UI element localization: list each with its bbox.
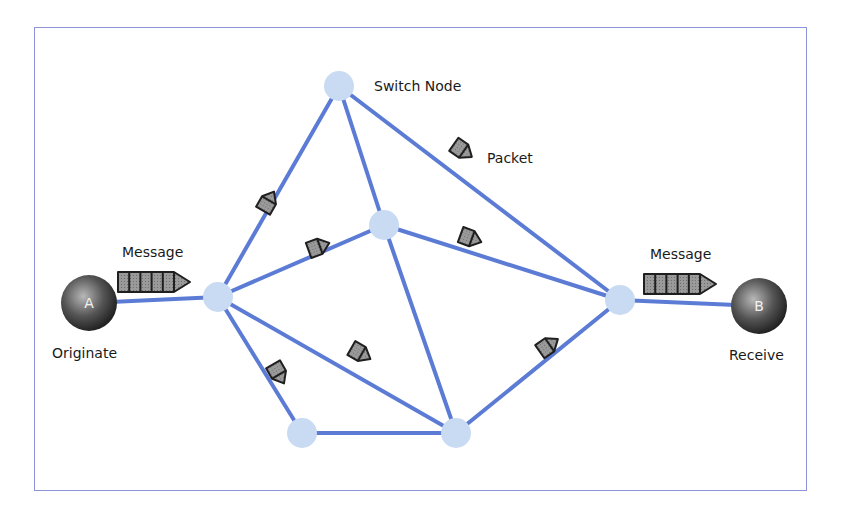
- switch-node: [287, 418, 317, 448]
- link-n2-n3: [339, 86, 384, 225]
- receive-label: Receive: [729, 347, 784, 363]
- endpoint-label-B: B: [754, 298, 764, 314]
- message-icon: [118, 272, 190, 292]
- switch-node: [203, 282, 233, 312]
- link-n1-n3: [218, 225, 384, 297]
- message-icon: [644, 274, 716, 294]
- message-label-right: Message: [650, 246, 711, 262]
- packet-icon: [458, 227, 484, 250]
- packet-icon: [347, 341, 374, 366]
- switch-node: [605, 285, 635, 315]
- link-n1-n4: [218, 297, 302, 433]
- message-label-left: Message: [122, 244, 183, 260]
- packet-icon: [306, 235, 332, 258]
- packet-icon: [535, 333, 562, 359]
- link-n2-n6: [339, 86, 620, 300]
- link-n1-n5: [218, 297, 456, 433]
- switch-node-label: Switch Node: [374, 78, 461, 94]
- link-n3-n5: [384, 225, 456, 433]
- switch-nodes: [203, 71, 635, 448]
- switch-node: [441, 418, 471, 448]
- link-n1-n2: [218, 86, 339, 297]
- link-n5-n6: [456, 300, 620, 433]
- switch-node: [324, 71, 354, 101]
- link-n3-n6: [384, 225, 620, 300]
- originate-label: Originate: [52, 345, 117, 361]
- switch-node: [369, 210, 399, 240]
- packet-label: Packet: [487, 150, 533, 166]
- endpoint-label-A: A: [84, 295, 94, 311]
- packet-icon: [449, 138, 476, 164]
